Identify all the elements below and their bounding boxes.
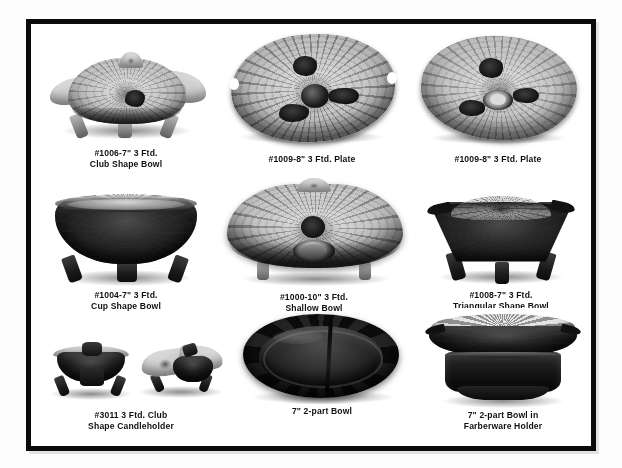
product-photo-1000: [219, 174, 409, 290]
caption-line-2: Farberware Holder: [413, 421, 593, 432]
product-cell-1004[interactable]: #1004-7" 3 Ftd. Cup Shape Bowl: [37, 182, 215, 320]
product-photo-1008: [413, 182, 589, 288]
product-caption-1006: #1006-7" 3 Ftd. Club Shape Bowl: [37, 148, 215, 170]
product-caption-1009-a: #1009-8" 3 Ftd. Plate: [217, 154, 407, 165]
product-cell-2part[interactable]: 7" 2-part Bowl: [227, 312, 417, 450]
caption-line-1: 7" 2-part Bowl in: [468, 410, 539, 420]
product-cell-1006[interactable]: #1006-7" 3 Ftd. Club Shape Bowl: [37, 28, 215, 178]
catalog-page: #1006-7" 3 Ftd. Club Shape Bowl: [0, 0, 622, 468]
product-photo-1004: [41, 182, 211, 288]
caption-line-2: Club Shape Bowl: [37, 159, 215, 170]
caption-line-1: #1009-8" 3 Ftd. Plate: [455, 154, 542, 164]
caption-line-1: #1008-7" 3 Ftd.: [469, 290, 532, 300]
caption-line-1: #1006-7" 3 Ftd.: [94, 148, 157, 158]
product-photo-1006: [41, 28, 211, 146]
caption-line-2: Cup Shape Bowl: [37, 301, 215, 312]
product-caption-2part: 7" 2-part Bowl: [227, 406, 417, 417]
product-caption-2part-holder: 7" 2-part Bowl in Farberware Holder: [413, 410, 593, 432]
product-photo-3011: [33, 324, 229, 408]
product-grid: #1006-7" 3 Ftd. Club Shape Bowl: [31, 24, 591, 446]
product-cell-1008[interactable]: #1008-7" 3 Ftd. Triangular Shape Bowl: [411, 182, 591, 322]
product-photo-2part-holder: [415, 308, 591, 408]
product-photo-2part: [229, 312, 415, 404]
product-cell-2part-holder[interactable]: 7" 2-part Bowl in Farberware Holder: [413, 308, 593, 450]
product-caption-3011: #3011 3 Ftd. Club Shape Candleholder: [31, 410, 231, 432]
caption-line-1: #1000-10" 3 Ftd.: [280, 292, 348, 302]
caption-line-2: Shape Candleholder: [31, 421, 231, 432]
product-photo-1009-b: [407, 26, 589, 152]
product-cell-1009-a[interactable]: #1009-8" 3 Ftd. Plate: [217, 26, 407, 176]
caption-line-1: #3011 3 Ftd. Club: [95, 410, 168, 420]
product-cell-3011[interactable]: #3011 3 Ftd. Club Shape Candleholder: [31, 324, 231, 450]
product-caption-1004: #1004-7" 3 Ftd. Cup Shape Bowl: [37, 290, 215, 312]
page-border-frame: #1006-7" 3 Ftd. Club Shape Bowl: [26, 19, 596, 451]
caption-line-1: #1004-7" 3 Ftd.: [94, 290, 157, 300]
product-cell-1000[interactable]: #1000-10" 3 Ftd. Shallow Bowl: [217, 174, 411, 320]
product-caption-1009-b: #1009-8" 3 Ftd. Plate: [405, 154, 591, 165]
product-cell-1009-b[interactable]: #1009-8" 3 Ftd. Plate: [405, 26, 591, 176]
caption-line-1: 7" 2-part Bowl: [292, 406, 352, 416]
product-photo-1009-a: [219, 26, 405, 152]
caption-line-1: #1009-8" 3 Ftd. Plate: [269, 154, 356, 164]
product-caption-1000: #1000-10" 3 Ftd. Shallow Bowl: [217, 292, 411, 314]
